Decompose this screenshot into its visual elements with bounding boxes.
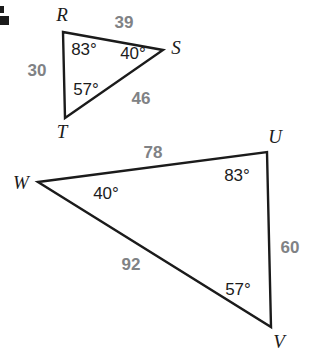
side-label-wv-92: 92 xyxy=(122,256,141,273)
vertex-label-s: S xyxy=(171,38,181,57)
side-label-uv-60: 60 xyxy=(281,239,300,256)
side-label-rs-39: 39 xyxy=(115,14,134,31)
angle-label-u-83: 83° xyxy=(224,167,250,184)
geometry-figure-canvas: R S T 83° 40° 57° 39 30 46 W U V 40° 83°… xyxy=(0,0,310,354)
side-label-ts-46: 46 xyxy=(132,90,151,107)
angle-label-s-40: 40° xyxy=(120,45,146,62)
angle-label-t-57: 57° xyxy=(73,81,99,98)
vertex-label-v: V xyxy=(273,332,285,351)
vertex-label-w: W xyxy=(13,173,29,192)
angle-label-w-40: 40° xyxy=(93,185,119,202)
side-label-wu-78: 78 xyxy=(144,144,163,161)
side-label-rt-30: 30 xyxy=(28,62,47,79)
vertex-label-t: T xyxy=(57,122,68,141)
vertex-label-r: R xyxy=(56,5,68,24)
triangles-svg xyxy=(0,0,310,354)
vertex-label-u: U xyxy=(268,127,282,146)
angle-label-r-83: 83° xyxy=(71,41,97,58)
angle-label-v-57: 57° xyxy=(225,281,251,298)
